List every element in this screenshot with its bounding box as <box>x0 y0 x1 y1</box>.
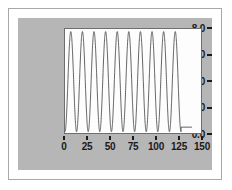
y-axis-tick-mark <box>207 133 212 135</box>
plot-panel: 0.02.04.06.08.0 0255075100125150 <box>18 18 212 170</box>
x-axis-tick-label: 75 <box>116 141 150 152</box>
x-axis-tick-mark <box>86 136 88 140</box>
y-axis-tick-mark <box>207 107 212 109</box>
figure-frame: 0.02.04.06.08.0 0255075100125150 <box>8 8 222 180</box>
x-axis-tick: 100 <box>139 136 173 152</box>
x-axis-tick-label: 25 <box>70 141 104 152</box>
x-axis-tick: 50 <box>93 136 127 152</box>
x-axis-tick-mark <box>109 136 111 140</box>
y-axis-tick-mark <box>207 27 212 29</box>
x-axis-tick: 150 <box>185 136 219 152</box>
x-axis-tick: 25 <box>70 136 104 152</box>
data-series-oscillation <box>65 29 201 133</box>
x-axis-tick: 125 <box>162 136 196 152</box>
x-axis-tick-mark <box>63 136 65 140</box>
x-axis-tick: 0 <box>47 136 81 152</box>
x-axis-tick-label: 0 <box>47 141 81 152</box>
x-axis-tick-mark <box>132 136 134 140</box>
x-axis-tick: 75 <box>116 136 150 152</box>
x-axis-tick-mark <box>155 136 157 140</box>
plot-area <box>64 28 202 134</box>
x-axis-tick-mark <box>178 136 180 140</box>
y-axis-tick-mark <box>207 80 212 82</box>
x-axis-tick-label: 150 <box>185 141 219 152</box>
x-axis-tick-label: 50 <box>93 141 127 152</box>
y-axis-tick-mark <box>207 54 212 56</box>
series-line <box>65 32 192 132</box>
x-axis-tick-mark <box>201 136 203 140</box>
x-axis-tick-label: 100 <box>139 141 173 152</box>
x-axis-tick-label: 125 <box>162 141 196 152</box>
